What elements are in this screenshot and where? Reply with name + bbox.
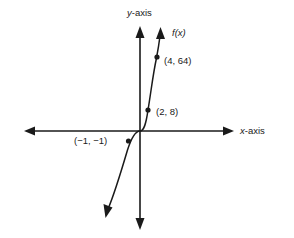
curve-label-fx: f(x) xyxy=(172,28,186,38)
data-point-2-8 xyxy=(145,107,150,112)
x-axis-left-arrow-icon xyxy=(24,127,35,136)
point-label-4-64: (4, 64) xyxy=(164,56,191,66)
y-axis-label-suffix: -axis xyxy=(132,7,152,18)
curve-top-arrow-icon xyxy=(156,27,165,39)
graph-canvas xyxy=(0,0,294,238)
y-axis-top-arrow-icon xyxy=(136,26,145,38)
y-axis-bottom-arrow-icon xyxy=(136,218,145,230)
data-point-4-64 xyxy=(154,54,159,59)
cubic-curve xyxy=(108,36,160,209)
y-axis-label: y-axis xyxy=(127,8,152,18)
function-graph-figure: y-axis x-axis f(x) (4, 64) (2, 8) (−1, −… xyxy=(0,0,294,238)
x-axis-label-suffix: -axis xyxy=(245,125,265,136)
x-axis-right-arrow-icon xyxy=(223,127,234,136)
point-label-neg1-neg1: (−1, −1) xyxy=(74,136,107,146)
x-axis-label: x-axis xyxy=(240,126,265,136)
point-label-2-8: (2, 8) xyxy=(156,107,178,117)
curve-bottom-arrow-icon xyxy=(104,204,113,218)
data-point-neg1-neg1 xyxy=(126,138,131,143)
